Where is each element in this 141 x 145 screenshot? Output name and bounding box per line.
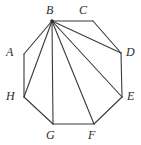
vertex-label-a: A [6,46,13,58]
diagonal-bh [24,21,52,97]
diagonal-bf [52,21,94,124]
diagonal-be [52,21,122,97]
edge-gh [24,97,53,124]
vertex-label-h: H [6,90,15,102]
edge-ef [94,97,122,124]
vertex-point-b [50,19,54,23]
edge-cd [93,21,121,53]
edge-ab [24,21,52,54]
octagon-diagram-canvas [0,0,141,145]
vertex-label-b: B [46,4,53,16]
octagon-figure: ABCDEFGH [0,0,141,145]
vertex-label-c: C [79,4,87,16]
vertex-label-f: F [88,129,95,141]
vertex-dot-b [50,19,54,23]
vertex-label-e: E [127,90,134,102]
edge-de [121,53,122,97]
diagonal-bg [52,21,53,124]
diagonal-bd [52,21,121,53]
vertex-label-d: D [126,46,135,58]
vertex-label-g: G [46,129,55,141]
